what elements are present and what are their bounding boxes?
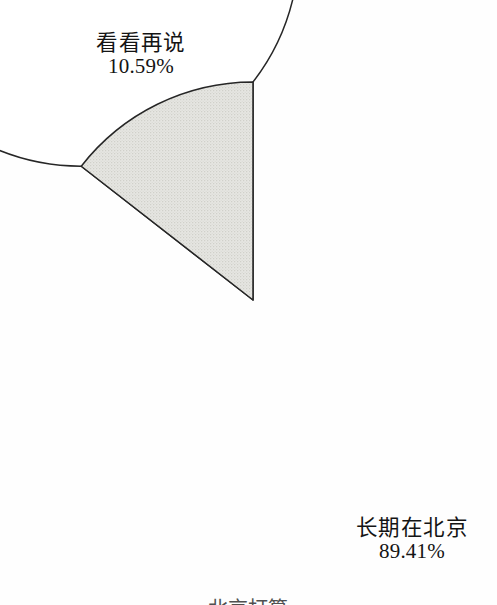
pie-label-minor-percent: 10.59% [96,55,186,79]
pie-chart-figure: 看看再说 10.59% 长期在北京 89.41% 北京打算 [0,0,497,605]
figure-caption: 北京打算 [208,593,288,605]
pie-label-major-name: 长期在北京 [356,516,468,540]
pie-label-major-percent: 89.41% [356,540,468,564]
pie-label-minor: 看看再说 10.59% [96,31,186,79]
pie-chart-canvas [0,0,497,605]
pie-label-minor-name: 看看再说 [96,31,186,55]
pie-label-major: 长期在北京 89.41% [356,516,468,564]
